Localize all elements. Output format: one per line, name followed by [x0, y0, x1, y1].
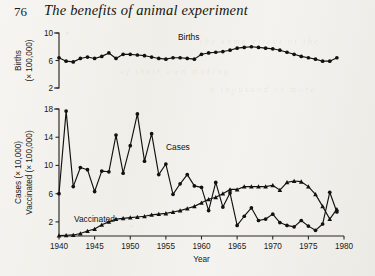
births-point [57, 56, 61, 60]
births-point [221, 50, 225, 54]
cases-point [178, 182, 182, 186]
births-point [107, 51, 111, 55]
year-ticklabel-1975: 1975 [299, 242, 318, 251]
births-point [200, 52, 204, 56]
running-head-title: The benefits of animal experiment [44, 2, 248, 19]
births-y-ticklabel-6: 6 [48, 57, 53, 66]
births-y-ticklabel-10: 10 [44, 29, 54, 38]
births-point [242, 46, 246, 50]
year-axis-title: Year [193, 255, 210, 264]
cases-point [64, 109, 68, 113]
births-point [214, 50, 218, 54]
cases-y-ticklabel-2: 2 [48, 218, 53, 227]
year-ticklabel-1965: 1965 [228, 242, 247, 251]
cases-point [57, 192, 61, 196]
births-point [171, 56, 175, 60]
births-point [71, 60, 75, 64]
births-point [86, 55, 90, 59]
births-series-label: Births [178, 32, 199, 42]
cases-point [250, 206, 254, 210]
births-point [121, 52, 125, 56]
cases-point [221, 205, 225, 209]
vaccinated-point [92, 227, 97, 231]
births-y-axis-title-line2: (× 100,000) [25, 39, 34, 81]
births-point [235, 46, 239, 50]
births-point [335, 56, 339, 60]
year-ticklabel-1955: 1955 [157, 242, 176, 251]
births-point [100, 55, 104, 59]
cases-point [86, 168, 90, 172]
births-point [136, 53, 140, 57]
cases-point [185, 173, 189, 177]
cases-point [299, 219, 303, 223]
charts-svg: 2610Births(× 100,000)Births2610141819401… [0, 24, 375, 276]
cases-series-label: Cases [166, 142, 190, 152]
cases-point [207, 209, 211, 213]
cases-point [242, 214, 246, 218]
births-point [250, 45, 254, 49]
cases-point [321, 222, 325, 226]
page-number: 76 [14, 4, 27, 20]
births-point [264, 46, 268, 50]
cases-point [314, 229, 318, 233]
cases-point [271, 212, 275, 216]
births-point [93, 57, 97, 61]
births-point [299, 55, 303, 59]
cases-point [257, 219, 261, 223]
births-point [193, 57, 197, 61]
cases-point [235, 224, 239, 228]
births-point [292, 52, 296, 56]
cases-point [292, 225, 296, 229]
cases-point [193, 184, 197, 188]
births-point [314, 57, 318, 61]
births-chart: 2610Births(× 100,000)Births [14, 29, 339, 93]
births-point [64, 59, 68, 63]
figure-charts: 2610Births(× 100,000)Births2610141819401… [0, 24, 375, 276]
cases-y-ticklabel-14: 14 [44, 133, 54, 142]
births-point [257, 46, 261, 50]
cases-y-ticklabel-18: 18 [44, 105, 54, 114]
births-y-axis-title-line1: Births [14, 50, 23, 71]
births-point [228, 48, 232, 52]
cases-point [136, 112, 140, 116]
cases-point [128, 144, 132, 148]
year-ticklabel-1950: 1950 [121, 242, 140, 251]
births-point [285, 50, 289, 54]
cases-point [307, 224, 311, 228]
year-ticklabel-1980: 1980 [335, 242, 354, 251]
cases-point [121, 171, 125, 175]
births-point [164, 57, 168, 61]
vaccinated-point [221, 191, 226, 195]
births-point [150, 55, 154, 59]
cases-point [107, 170, 111, 174]
births-y-ticklabel-2: 2 [48, 84, 53, 93]
cases-point [278, 221, 282, 225]
cases-point [214, 181, 218, 185]
year-ticklabel-1970: 1970 [264, 242, 283, 251]
births-point [307, 56, 311, 60]
cases-point [200, 185, 204, 189]
cases-point [150, 132, 154, 136]
vaccinated-series-label: Vaccinated [74, 214, 115, 224]
births-point [278, 48, 282, 52]
year-ticklabel-1940: 1940 [50, 242, 69, 251]
births-point [207, 51, 211, 55]
cases-point [79, 166, 83, 170]
births-point [271, 47, 275, 51]
births-point [321, 59, 325, 63]
year-ticklabel-1945: 1945 [86, 242, 105, 251]
cases-point [157, 173, 161, 177]
births-point [328, 59, 332, 63]
cases-point [285, 224, 289, 228]
cases-y-ticklabel-10: 10 [44, 161, 54, 170]
births-point [114, 57, 118, 61]
births-point [79, 57, 83, 61]
births-point [143, 54, 147, 58]
births-point [185, 57, 189, 61]
cases-point [264, 217, 268, 221]
cases-point [143, 159, 147, 163]
page-header: 76 The benefits of animal experiment [0, 0, 375, 24]
cases-point [93, 190, 97, 194]
cases-point [228, 191, 232, 195]
cases-point [164, 162, 168, 166]
